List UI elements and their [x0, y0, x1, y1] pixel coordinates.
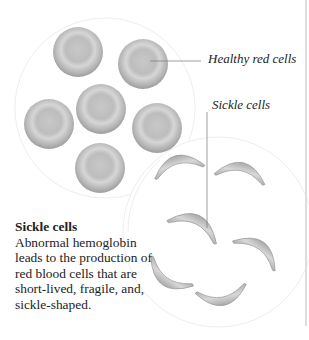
page-divider	[305, 0, 307, 326]
caption-body: Abnormal hemoglobin leads to the product…	[15, 235, 152, 312]
healthy-red-cells-label: Healthy red cells	[208, 51, 296, 67]
caption: Sickle cells Abnormal hemoglobin leads t…	[15, 219, 155, 312]
caption-title: Sickle cells	[15, 219, 155, 235]
sickle-cells-label: Sickle cells	[212, 97, 270, 113]
